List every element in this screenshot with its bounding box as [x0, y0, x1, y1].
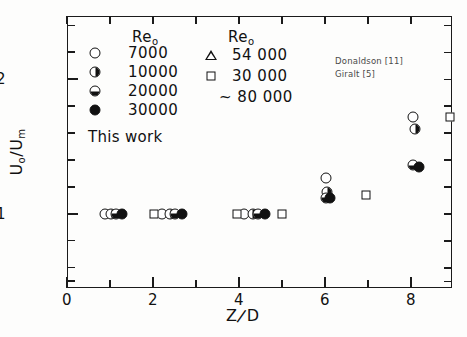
marker-circle-filled [259, 208, 270, 219]
y-tick-0.5 [67, 280, 75, 282]
marker-circle-open [408, 111, 419, 122]
x-tick-top-1 [109, 16, 111, 24]
x-tick-2 [152, 277, 154, 288]
y-tick-1.8 [67, 105, 75, 107]
y-tick-right-2.4 [444, 25, 452, 27]
x-tick-4 [238, 277, 240, 288]
x-tick-7 [367, 280, 369, 288]
x-tick-top-6 [324, 16, 326, 24]
x-tick-top-3 [195, 16, 197, 24]
y-axis-title-text: Uo/Um [7, 128, 26, 175]
y-tick-right-1.8 [444, 105, 452, 107]
x-tick-5 [281, 280, 283, 288]
y-tick-1.2 [67, 186, 75, 188]
marker-square-open [445, 112, 454, 121]
x-tick-6 [324, 277, 326, 288]
y-tick-1 [67, 213, 78, 215]
x-tick-3 [195, 280, 197, 288]
marker-square-open [278, 209, 287, 218]
data-point-3-2 [259, 208, 270, 219]
x-tick-8 [410, 277, 412, 288]
x-tick-0 [66, 277, 68, 288]
y-tick-2.4 [67, 25, 75, 27]
y-axis-title: Uo/Um [7, 128, 26, 175]
x-tick-top-2 [152, 16, 154, 24]
data-point-3-1 [177, 208, 188, 219]
marker-circle-filled [177, 208, 188, 219]
x-tick-label-6: 6 [320, 293, 330, 308]
plot-frame [67, 16, 452, 288]
marker-circle-half-right [410, 124, 421, 135]
marker-circle-filled [413, 161, 424, 172]
x-tick-label-8: 8 [406, 293, 416, 308]
data-point-0-3 [320, 172, 331, 183]
y-tick-2 [67, 78, 78, 80]
y-tick-right-1.6 [444, 132, 452, 134]
marker-circle-filled [325, 192, 336, 203]
x-tick-1 [109, 280, 111, 288]
y-tick-label-1: 1 [0, 206, 6, 221]
marker-circle-open [320, 172, 331, 183]
y-tick-2.2 [67, 51, 75, 53]
marker-square-open [149, 209, 158, 218]
x-tick-label-2: 2 [148, 293, 158, 308]
y-tick-right-0.6 [444, 267, 452, 269]
y-tick-right-1.4 [444, 159, 452, 161]
figure-jet-velocity-decay: Uo/Um Z/D 0246812 Reo Reo 7000 10000 200… [0, 0, 467, 337]
data-point-5-2 [278, 209, 287, 218]
x-tick-top-7 [367, 16, 369, 24]
marker-square-open [232, 209, 241, 218]
data-point-3-0 [117, 208, 128, 219]
x-tick-top-0 [66, 16, 68, 24]
data-point-0-4 [408, 111, 419, 122]
y-tick-1.6 [67, 132, 75, 134]
x-tick-top-5 [281, 16, 283, 24]
y-tick-0.6 [67, 267, 75, 269]
x-tick-label-4: 4 [234, 293, 244, 308]
data-point-1-4 [410, 124, 421, 135]
y-tick-label-2: 2 [0, 72, 6, 87]
data-point-5-0 [149, 209, 158, 218]
marker-square-open [361, 191, 370, 200]
x-tick-top-4 [238, 16, 240, 24]
data-point-3-3 [325, 192, 336, 203]
data-point-5-1 [232, 209, 241, 218]
data-point-5-3 [361, 191, 370, 200]
data-point-3-4 [413, 161, 424, 172]
y-tick-right-2 [444, 79, 452, 81]
y-tick-0.8 [67, 240, 75, 242]
y-tick-right-2.2 [444, 52, 452, 54]
y-tick-right-1.2 [444, 186, 452, 188]
y-tick-right-1 [444, 213, 452, 215]
y-tick-right-0.5 [444, 281, 452, 283]
y-tick-1.4 [67, 159, 75, 161]
marker-circle-filled [117, 208, 128, 219]
x-tick-label-0: 0 [62, 293, 72, 308]
y-tick-right-0.8 [444, 240, 452, 242]
data-point-5-4 [445, 112, 454, 121]
x-tick-top-8 [410, 16, 412, 24]
